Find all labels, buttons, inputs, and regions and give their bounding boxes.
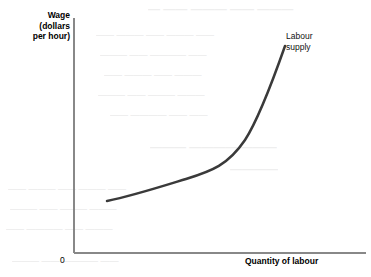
curve-label-line-2: supply: [286, 42, 312, 53]
y-axis-label-line-3: per hour): [33, 31, 70, 42]
origin-label: 0: [60, 255, 65, 265]
y-axis-label-line-2: (dollars: [33, 21, 70, 32]
labour-supply-curve: [107, 46, 285, 201]
x-axis-label: Quantity of labour: [245, 256, 318, 267]
labour-supply-curve-label: Labour supply: [286, 31, 312, 52]
y-axis-label-line-1: Wage: [33, 10, 70, 21]
labour-supply-curve-figure: — —— ——— —— ——— —— ——— —— ——— —— ——— —— …: [0, 0, 371, 277]
y-axis-label: Wage (dollars per hour): [33, 10, 70, 42]
curve-label-line-1: Labour: [286, 31, 312, 42]
chart-plot-area: [0, 0, 371, 277]
